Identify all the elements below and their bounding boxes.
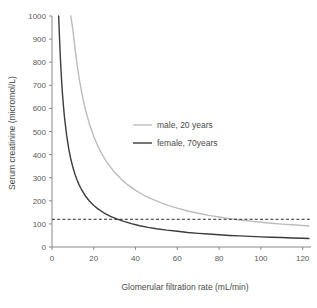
x-axis-title: Glomerular filtration rate (mL/min) (121, 282, 248, 292)
y-tick-label: 700 (33, 81, 47, 90)
y-tick-label: 200 (33, 197, 47, 206)
y-tick-label: 800 (33, 58, 47, 67)
y-tick-label: 900 (33, 35, 47, 44)
chart-figure: 020406080100120 010020030040050060070080… (0, 0, 317, 308)
axis-lines (52, 16, 311, 247)
x-tick-label: 60 (173, 254, 182, 263)
x-tick-label: 100 (254, 254, 268, 263)
x-tick-label: 20 (89, 254, 98, 263)
y-tick-label: 100 (33, 220, 47, 229)
legend-label-male-20-years: male, 20 years (157, 120, 213, 130)
x-tick-label: 40 (131, 254, 140, 263)
x-axis-tick-labels: 020406080100120 (50, 254, 310, 263)
y-tick-label: 1000 (28, 12, 46, 21)
x-tick-label: 0 (50, 254, 55, 263)
x-tick-label: 120 (296, 254, 310, 263)
x-tick-label: 80 (215, 254, 224, 263)
chart-legend: male, 20 years female, 70years (133, 120, 217, 148)
y-tick-label: 500 (33, 128, 47, 137)
chart-canvas: 020406080100120 010020030040050060070080… (0, 0, 317, 308)
y-tick-label: 600 (33, 104, 47, 113)
y-axis-tick-labels: 01002003004005006007008009001000 (28, 12, 46, 252)
legend-label-female-70-years: female, 70years (157, 138, 217, 148)
y-tick-label: 300 (33, 174, 47, 183)
y-axis-title: Serum creatinine (micromol/L) (7, 76, 17, 190)
y-tick-label: 400 (33, 151, 47, 160)
y-tick-label: 0 (42, 243, 47, 252)
